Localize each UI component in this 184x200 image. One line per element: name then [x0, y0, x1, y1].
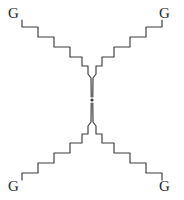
end-group-label-bottom-right: G [159, 179, 170, 194]
star-core-node [90, 98, 93, 101]
star-polymer-figure: G G G G [0, 0, 184, 200]
end-group-label-top-right: G [159, 6, 170, 21]
polymer-chain-canvas [0, 0, 184, 200]
end-group-label-top-left: G [8, 6, 19, 21]
end-group-label-bottom-left: G [8, 179, 19, 194]
